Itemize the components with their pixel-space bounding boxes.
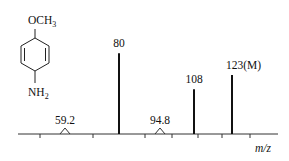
metastable-group: 59.294.8: [55, 114, 170, 134]
x-axis-ticks: [40, 134, 250, 138]
mass-spectrum-chart: OCH3 NH2 80108123(M) 59.294.8 m/z: [0, 0, 289, 161]
metastable-label: 94.8: [150, 114, 170, 126]
peak-label: 123(M): [226, 59, 261, 72]
peak-label: 80: [113, 37, 125, 49]
amino-group-label: NH2: [28, 86, 49, 101]
x-axis-label: m/z: [255, 142, 272, 154]
methoxy-group-label: OCH3: [28, 14, 56, 29]
metastable-peak: [60, 128, 70, 134]
molecule-structure: [21, 29, 49, 83]
peaks-group: 80108123(M): [113, 37, 261, 134]
benzene-ring: [21, 38, 49, 71]
metastable-label: 59.2: [55, 114, 75, 126]
peak-label: 108: [185, 73, 203, 85]
metastable-peak: [155, 128, 165, 134]
